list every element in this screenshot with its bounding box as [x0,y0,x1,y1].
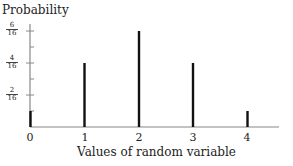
x-axis-label: Values of random variable [0,145,293,159]
x-tick-label-4: 4 [239,131,255,144]
x-tick-label-0: 0 [22,131,38,144]
x-tick-label-2: 2 [131,131,147,144]
x-tick-label-3: 3 [185,131,201,144]
x-tick-label-1: 1 [77,131,93,144]
